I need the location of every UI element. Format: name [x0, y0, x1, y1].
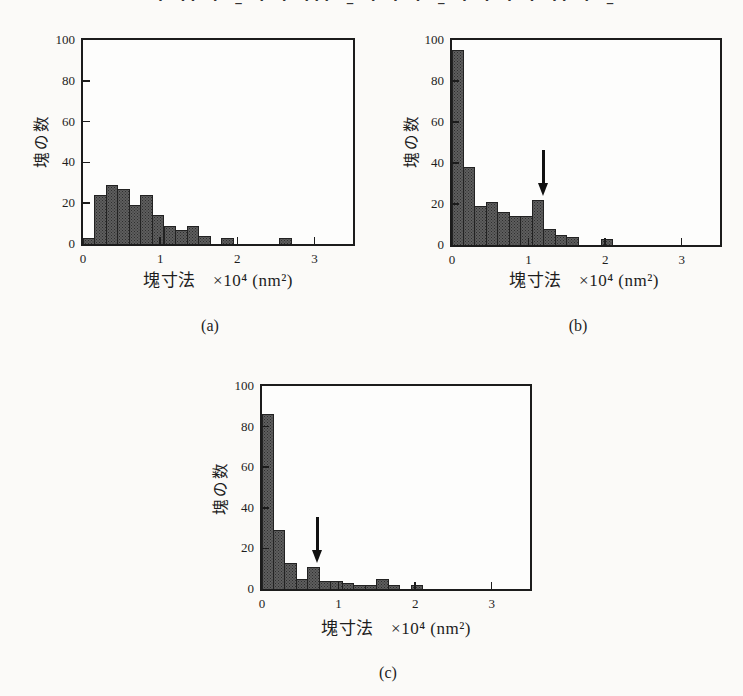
- x-tick-label-a-3: 3: [304, 251, 324, 267]
- annotation-arrow-head-b: [538, 183, 548, 196]
- annotation-arrow-shaft-c: [316, 517, 319, 551]
- x-tick-mark-c: [491, 582, 493, 589]
- cropped-top-caption-marks: . .. . _ . . ... _ . . . _ . . . . .. . …: [158, 0, 618, 5]
- histogram-bar-a: [198, 236, 211, 244]
- y-tick-label-b-20: 20: [404, 196, 444, 212]
- x-tick-label-b-2: 2: [595, 252, 615, 268]
- x-tick-label-c-2: 2: [405, 596, 425, 612]
- y-tick-mark-b: [452, 80, 459, 82]
- panel-caption-c: (c): [348, 662, 428, 684]
- y-tick-mark-a: [83, 80, 90, 82]
- y-tick-mark-b: [452, 203, 459, 205]
- panel-caption-b: (b): [538, 315, 618, 337]
- y-axis-title-a: 塊の数: [31, 71, 53, 211]
- y-tick-label-c-0: 0: [214, 581, 254, 597]
- plot-frame-c: [260, 384, 532, 591]
- x-tick-label-a-2: 2: [227, 251, 247, 267]
- y-tick-mark-c: [262, 466, 269, 468]
- x-tick-label-a-1: 1: [150, 251, 170, 267]
- y-tick-mark-b: [452, 121, 459, 123]
- y-tick-mark-b: [452, 162, 459, 164]
- cropped-top-caption: . .. . _ . . ... _ . . . _ . . . . .. . …: [158, 0, 618, 5]
- x-axis-title-c: 塊寸法 ×10⁴ (nm²): [256, 618, 536, 640]
- x-tick-mark-a: [159, 237, 161, 244]
- x-tick-label-b-1: 1: [519, 252, 539, 268]
- x-tick-label-c-0: 0: [252, 596, 272, 612]
- y-tick-label-a-60: 60: [35, 114, 75, 130]
- panel-caption-a: (a): [170, 315, 250, 337]
- y-tick-label-c-60: 60: [214, 459, 254, 475]
- y-tick-label-a-40: 40: [35, 154, 75, 170]
- y-tick-label-b-0: 0: [404, 237, 444, 253]
- y-tick-mark-c: [262, 507, 269, 509]
- y-tick-label-b-60: 60: [404, 114, 444, 130]
- x-tick-mark-b: [528, 238, 530, 245]
- y-tick-label-c-80: 80: [214, 419, 254, 435]
- y-tick-mark-c: [262, 548, 269, 550]
- x-tick-label-c-1: 1: [329, 596, 349, 612]
- y-tick-label-c-40: 40: [214, 500, 254, 516]
- x-tick-mark-b: [681, 238, 683, 245]
- x-tick-label-b-0: 0: [442, 252, 462, 268]
- histogram-bar-b: [601, 239, 613, 245]
- y-axis-title-b: 塊の数: [401, 71, 423, 211]
- y-tick-label-b-40: 40: [404, 155, 444, 171]
- annotation-arrow-shaft-b: [542, 150, 545, 184]
- histogram-bar-c: [388, 585, 400, 589]
- y-tick-label-a-80: 80: [35, 73, 75, 89]
- x-tick-mark-c: [414, 582, 416, 589]
- y-tick-label-c-20: 20: [214, 540, 254, 556]
- y-tick-label-a-20: 20: [35, 195, 75, 211]
- x-tick-label-b-3: 3: [672, 252, 692, 268]
- x-axis-title-b: 塊寸法 ×10⁴ (nm²): [444, 270, 724, 292]
- y-tick-mark-c: [262, 426, 269, 428]
- y-tick-mark-a: [83, 162, 90, 164]
- histogram-bar-b: [566, 237, 578, 245]
- histogram-bar-a: [279, 238, 292, 244]
- y-tick-label-b-80: 80: [404, 73, 444, 89]
- x-tick-label-c-3: 3: [482, 596, 502, 612]
- y-tick-label-b-100: 100: [404, 32, 444, 48]
- annotation-arrow-head-c: [312, 550, 322, 563]
- histogram-bar-c: [411, 585, 423, 589]
- histogram-bar-a: [221, 238, 234, 244]
- x-tick-mark-c: [338, 582, 340, 589]
- x-tick-mark-a: [314, 237, 316, 244]
- x-tick-label-a-0: 0: [73, 251, 93, 267]
- x-tick-mark-b: [604, 238, 606, 245]
- y-tick-label-a-0: 0: [35, 236, 75, 252]
- scanned-figure-page: . .. . _ . . ... _ . . . _ . . . . .. . …: [0, 0, 743, 696]
- y-axis-title-c: 塊の数: [210, 418, 232, 558]
- y-tick-mark-a: [83, 202, 90, 204]
- y-tick-label-a-100: 100: [35, 32, 75, 48]
- x-axis-title-a: 塊寸法 ×10⁴ (nm²): [78, 270, 358, 292]
- x-tick-mark-a: [237, 237, 239, 244]
- y-tick-mark-a: [83, 121, 90, 123]
- y-tick-label-c-100: 100: [214, 378, 254, 394]
